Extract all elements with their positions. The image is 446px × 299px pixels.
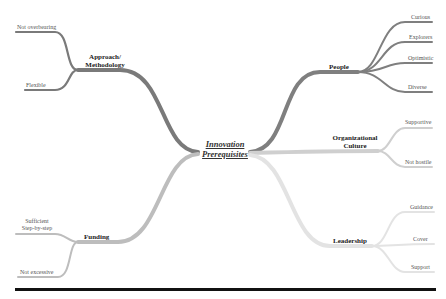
leaf-not-excessive[interactable]: Not excessive <box>20 269 54 276</box>
branch-culture[interactable]: Organizational Culture <box>326 134 384 150</box>
connector-center-to-leadership <box>250 155 372 246</box>
branch-funding-lines <box>16 154 198 277</box>
central-topic-line2: Prerequisites <box>197 150 253 160</box>
leaf-support[interactable]: Support <box>411 264 430 271</box>
leaf-supportive[interactable]: Supportive <box>405 119 431 126</box>
branch-approach-line1: Approach/ <box>80 53 130 61</box>
branch-leadership[interactable]: Leadership <box>333 237 367 245</box>
connector-leadership-to-cover <box>372 244 434 246</box>
leaf-sufficient-step-by-step[interactable]: Sufficient Step-by-step <box>20 218 54 232</box>
leaf-not-hostile[interactable]: Not hostile <box>405 159 432 166</box>
leaf-optimistic[interactable]: Optimistic <box>408 55 433 62</box>
branch-people[interactable]: People <box>329 63 349 71</box>
connector-approach-to-not-overbearing <box>16 32 78 70</box>
leaf-curious[interactable]: Curious <box>411 14 430 21</box>
connector-funding-to-sufficient <box>16 234 78 242</box>
connector-center-to-approach <box>78 70 198 152</box>
branch-culture-line2: Culture <box>326 142 384 150</box>
leaf-sufficient-line2: Step-by-step <box>20 225 54 232</box>
branch-funding[interactable]: Funding <box>84 233 109 241</box>
leaf-sufficient-line1: Sufficient <box>20 218 54 225</box>
branch-approach-line2: Methodology <box>80 61 130 69</box>
branch-people-lines <box>250 22 432 152</box>
central-topic[interactable]: Innovation Prerequisites <box>197 140 253 160</box>
leaf-diverse[interactable]: Diverse <box>408 84 427 91</box>
branch-leadership-lines <box>250 155 434 272</box>
leaf-guidance[interactable]: Guidance <box>410 204 433 211</box>
bottom-divider <box>15 288 436 291</box>
branch-culture-line1: Organizational <box>326 134 384 142</box>
connector-culture-to-supportive <box>378 128 432 151</box>
branch-approach-lines <box>16 32 198 152</box>
connector-center-to-funding <box>78 154 198 242</box>
leaf-explorers[interactable]: Explorers <box>409 34 432 41</box>
leaf-not-overbearing[interactable]: Not overbearing <box>17 24 56 31</box>
leaf-flexible[interactable]: Flexible <box>26 82 46 89</box>
connector-center-to-culture <box>250 151 378 153</box>
branch-approach[interactable]: Approach/ Methodology <box>80 53 130 69</box>
leaf-cover[interactable]: Cover <box>413 236 428 243</box>
